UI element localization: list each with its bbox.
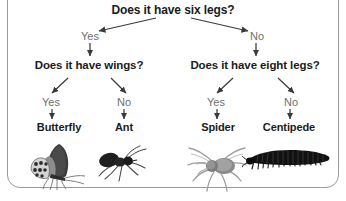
branch-label-wings-yes: Yes bbox=[42, 96, 60, 108]
branch-label-eight-legs-no: No bbox=[284, 96, 298, 108]
ant-illustration bbox=[90, 144, 152, 188]
centipede-illustration bbox=[242, 146, 334, 178]
node-question-eight-legs: Does it have eight legs? bbox=[190, 59, 319, 71]
node-question-wings: Does it have wings? bbox=[35, 59, 144, 71]
decision-tree-figure: Does it have six legs? Yes No Does it ha… bbox=[0, 0, 346, 201]
butterfly-illustration bbox=[21, 136, 97, 192]
branch-label-root-no: No bbox=[250, 30, 264, 42]
spider-illustration bbox=[185, 139, 249, 195]
branch-label-eight-legs-yes: Yes bbox=[207, 96, 225, 108]
node-leaf-centipede: Centipede bbox=[263, 121, 315, 133]
node-root-question: Does it have six legs? bbox=[111, 3, 234, 17]
branch-label-root-yes: Yes bbox=[81, 30, 99, 42]
node-leaf-spider: Spider bbox=[201, 121, 235, 133]
node-leaf-butterfly: Butterfly bbox=[37, 121, 81, 133]
branch-label-wings-no: No bbox=[117, 96, 131, 108]
node-leaf-ant: Ant bbox=[115, 121, 133, 133]
